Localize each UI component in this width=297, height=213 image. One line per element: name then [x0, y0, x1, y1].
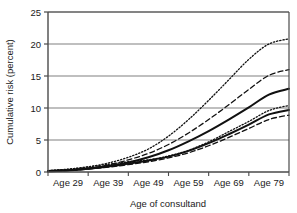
x-tick-label-3: Age 59: [174, 177, 204, 188]
y-tick-label-25: 25: [30, 7, 41, 18]
x-tick-label-0: Age 29: [53, 177, 83, 188]
chart-figure: 0510152025 Age 29Age 39Age 49Age 59Age 6…: [0, 0, 297, 213]
x-tick-label-2: Age 49: [133, 177, 163, 188]
y-tick-label-5: 5: [36, 135, 41, 146]
x-tick-label-4: Age 69: [214, 177, 244, 188]
cumulative-risk-line-chart: 0510152025 Age 29Age 39Age 49Age 59Age 6…: [0, 0, 297, 213]
x-axis-title: Age of consultand: [130, 198, 206, 209]
x-tick-label-1: Age 39: [93, 177, 123, 188]
x-tick-label-5: Age 79: [254, 177, 284, 188]
y-tick-label-15: 15: [30, 71, 41, 82]
y-tick-label-0: 0: [36, 167, 41, 178]
y-tick-label-20: 20: [30, 39, 41, 50]
y-tick-label-10: 10: [30, 103, 41, 114]
y-axis-title: Cumulative risk (percent): [4, 39, 15, 145]
